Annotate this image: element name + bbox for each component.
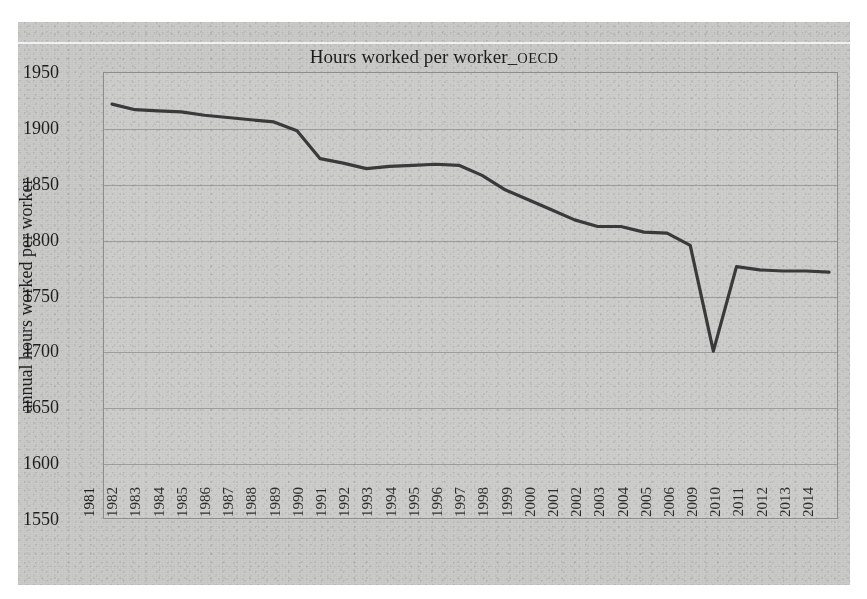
y-axis-tick-label: 1600 [23,453,59,474]
y-axis-tick-label: 1900 [23,117,59,138]
chart-title-main: Hours worked per worker_ [310,46,518,67]
y-axis-tick-label: 1850 [23,173,59,194]
chart-title: Hours worked per worker_OECD [18,46,850,68]
y-axis-tick-label: 1700 [23,341,59,362]
series-line-chart [104,73,837,518]
chart-figure: Hours worked per worker_OECD annual hour… [18,22,850,585]
y-axis-tick-label: 1800 [23,229,59,250]
plot-area [103,72,838,519]
y-axis-tick-label: 1950 [23,62,59,83]
series-polyline [112,104,829,351]
y-axis-tick-label: 1750 [23,285,59,306]
x-axis-tick-label: 2014 [819,525,841,585]
chart-title-suffix: OECD [517,50,558,66]
y-axis-tick-label: 1650 [23,397,59,418]
title-rule [18,42,850,44]
y-axis-tick-label: 1550 [23,509,59,530]
